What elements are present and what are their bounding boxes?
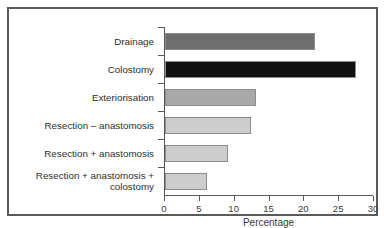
plot-area: 051015202530 Percentage <box>157 27 373 195</box>
x-axis-tick-label: 30 <box>368 203 379 214</box>
x-axis-tick <box>199 196 200 201</box>
figure-frame: DrainageColostomyExteriorisationResectio… <box>7 7 378 216</box>
bar <box>165 33 315 50</box>
y-axis-tick <box>158 83 164 84</box>
x-axis-tick <box>338 196 339 201</box>
category-label: Resection + anastomosis <box>12 148 154 159</box>
category-label: Colostomy <box>12 64 154 75</box>
category-label: Exteriorisation <box>12 92 154 103</box>
y-axis-tick <box>158 139 164 140</box>
bar <box>165 89 256 106</box>
x-axis-tick <box>234 196 235 201</box>
x-axis-tick <box>164 196 165 201</box>
bar <box>165 117 251 134</box>
y-axis-line <box>164 27 165 195</box>
x-axis-tick-label: 5 <box>196 203 201 214</box>
category-label: Resection – anastomosis <box>12 120 154 131</box>
x-axis-tick-label: 15 <box>263 203 274 214</box>
x-axis-title: Percentage <box>164 217 373 225</box>
bar <box>165 145 228 162</box>
bar <box>165 173 207 190</box>
category-axis-labels: DrainageColostomyExteriorisationResectio… <box>9 27 154 195</box>
y-axis-tick <box>158 111 164 112</box>
x-axis-tick <box>373 196 374 201</box>
y-axis-tick <box>158 55 164 56</box>
x-axis-tick-label: 25 <box>333 203 344 214</box>
bar <box>165 61 356 78</box>
category-label: Drainage <box>12 36 154 47</box>
x-axis-tick <box>269 196 270 201</box>
category-label: Resection + anastomosis + colostomy <box>12 170 154 192</box>
x-axis-tick-label: 0 <box>161 203 166 214</box>
y-axis-tick <box>158 167 164 168</box>
chart-figure: DrainageColostomyExteriorisationResectio… <box>0 0 387 225</box>
x-axis-tick-label: 10 <box>228 203 239 214</box>
x-axis-tick-label: 20 <box>298 203 309 214</box>
y-axis-tick <box>158 27 164 28</box>
x-axis-tick <box>303 196 304 201</box>
